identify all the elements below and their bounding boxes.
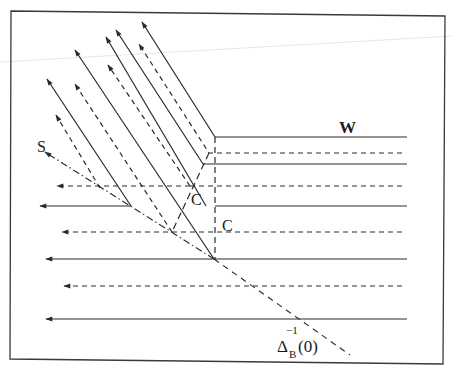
delta-superscript: −1 <box>286 324 298 336</box>
ray-solid-5 <box>75 50 214 259</box>
wave-lines <box>40 22 407 319</box>
label-c1: C <box>191 191 202 208</box>
ray-solid-1 <box>142 22 407 137</box>
scan-crease <box>0 36 453 62</box>
delta-subscript: B <box>289 348 296 360</box>
label-s: S <box>37 138 46 155</box>
diagram-canvas: W S C C Δ B −1 (0) <box>0 0 453 373</box>
label-c2: C <box>222 217 233 234</box>
delta-argument: (0) <box>298 337 318 356</box>
ray-solid-6 <box>47 79 131 206</box>
delta-base: Δ <box>277 337 288 356</box>
figure-frame <box>10 11 445 364</box>
label-delta-inverse: Δ B −1 (0) <box>277 324 318 360</box>
label-w: W <box>339 118 356 137</box>
ray-dashed-4 <box>75 84 172 232</box>
ray-solid-3 <box>106 37 206 206</box>
